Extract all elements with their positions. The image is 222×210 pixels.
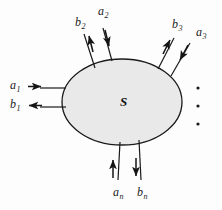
port-3-reflected-label: b3 [172,18,182,30]
port-1-incident-label: a1 [10,79,20,91]
port-n-arrows [113,158,136,178]
port-n-reflected-line [139,140,141,180]
a3-flow-arrow [180,45,188,60]
scattering-network-figure: S a1 b1 b2 a2 b3 a3 an bn [0,0,222,210]
b1-base: b [10,97,16,111]
port-n-incident-line [118,142,120,180]
port-3-reflected-line [158,38,174,69]
an-subscript: n [120,192,124,201]
a3-subscript: 3 [203,32,207,41]
port-1-reflected-label: b1 [10,98,20,110]
port-3-arrows [163,40,188,60]
port-2-incident-label: a2 [98,5,108,17]
network-label-s: S [120,95,127,108]
b3-subscript: 3 [179,24,183,33]
bn-base: b [137,185,143,199]
port-n-reflected-label: bn [137,186,147,198]
a2-subscript: 2 [105,11,109,20]
ellipsis-dot-3 [196,122,199,125]
b1-subscript: 1 [17,104,21,113]
a3-base: a [196,25,202,39]
bn-subscript: n [144,192,148,201]
b2-subscript: 2 [82,22,86,31]
an-base: a [113,185,119,199]
ellipsis-dot-2 [196,104,199,107]
b3-base: b [172,17,178,31]
ellipsis-dot-1 [196,86,199,89]
a2-base: a [98,4,104,18]
port-2-reflected-label: b2 [75,16,85,28]
more-ports-ellipsis [196,86,199,125]
port-3-incident-label: a3 [196,26,206,38]
port-2-incident-line [103,28,112,61]
a1-subscript: 1 [17,85,21,94]
b2-base: b [75,15,81,29]
port-n-incident-label: an [113,186,123,198]
port-n-lines [118,140,141,180]
a1-base: a [10,78,16,92]
network-diagram-canvas [0,0,222,210]
port-1-arrows [28,87,42,106]
